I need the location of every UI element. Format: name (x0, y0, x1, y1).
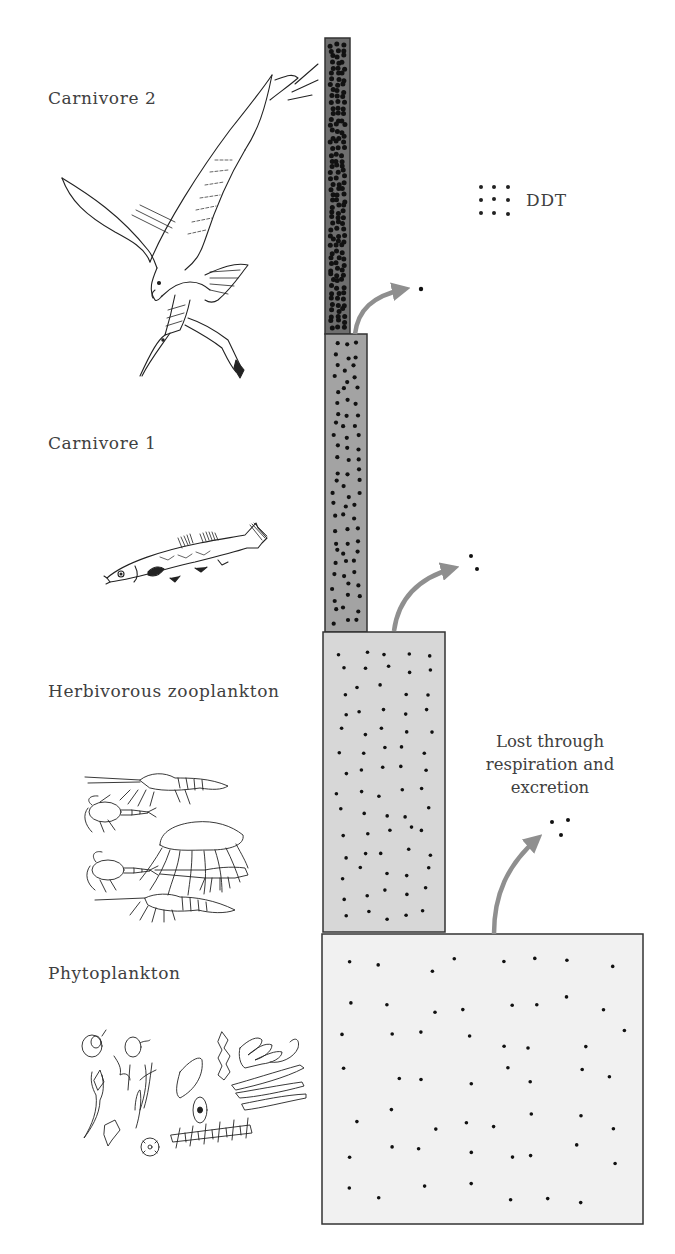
ddt-dot-zooplankton (335, 792, 339, 796)
ddt-dot-carnivore2 (340, 267, 345, 272)
ddt-dot-carnivore1 (354, 618, 358, 622)
ddt-dot-carnivore1 (356, 539, 360, 543)
ddt-dot-phytoplankton (511, 1155, 515, 1159)
ddt-dot-carnivore2 (336, 111, 341, 116)
ddt-dot-phytoplankton (608, 1075, 612, 1079)
ddt-dot-carnivore2 (331, 111, 336, 116)
ddt-dot-carnivore2 (330, 205, 335, 210)
ddt-dot-phytoplankton (506, 1066, 510, 1070)
lost-ddt-dot (475, 567, 479, 571)
ddt-dot-phytoplankton (417, 1147, 421, 1151)
ddt-dot-phytoplankton (349, 1001, 353, 1005)
ddt-dot-carnivore2 (335, 296, 340, 301)
ddt-dot-zooplankton (383, 746, 387, 750)
ddt-dot-carnivore2 (335, 55, 340, 60)
ddt-dot-carnivore2 (342, 180, 347, 185)
ddt-dot-phytoplankton (533, 957, 537, 961)
ddt-dot-carnivore1 (331, 491, 335, 495)
ddt-dot-carnivore1 (345, 446, 349, 450)
ddt-dot-carnivore2 (334, 41, 339, 46)
ddt-dot-phytoplankton (398, 1077, 402, 1081)
ddt-dot-carnivore1 (353, 424, 357, 428)
ddt-dot-carnivore2 (334, 273, 339, 278)
level-label-carnivore2: Carnivore 2 (48, 88, 157, 108)
ddt-dot-zooplankton (344, 713, 348, 717)
ddt-dot-carnivore2 (334, 122, 339, 127)
ddt-dot-carnivore1 (346, 618, 350, 622)
ddt-dot-carnivore1 (336, 443, 340, 447)
food-chain-diagram (0, 0, 675, 1254)
ddt-dot-carnivore1 (334, 607, 338, 611)
ddt-dot-phytoplankton (575, 1143, 579, 1147)
ddt-dot-zooplankton (421, 909, 425, 913)
ddt-dot-zooplankton (427, 866, 431, 870)
ddt-dot-phytoplankton (423, 1184, 427, 1188)
ddt-dot-carnivore2 (335, 94, 340, 99)
ddt-dot-phytoplankton (502, 960, 506, 964)
ddt-dot-carnivore1 (342, 386, 346, 390)
ddt-dot-carnivore1 (347, 458, 351, 462)
ddt-dot-carnivore2 (334, 249, 339, 254)
lost-ddt-dot (566, 818, 570, 822)
ddt-dot-zooplankton (341, 877, 345, 881)
ddt-dot-zooplankton (429, 668, 433, 672)
ddt-dot-carnivore2 (342, 320, 347, 325)
ddt-dot-phytoplankton (461, 1008, 465, 1012)
ddt-dot-zooplankton (424, 886, 428, 890)
ddt-dot-phytoplankton (613, 1162, 617, 1166)
ddt-dot-carnivore2 (336, 318, 341, 323)
ddt-dot-zooplankton (400, 745, 404, 749)
ddt-dot-zooplankton (364, 852, 368, 856)
ddt-dot-zooplankton (359, 866, 363, 870)
ddt-dot-phytoplankton (509, 1198, 513, 1202)
ddt-dot-carnivore2 (341, 256, 346, 261)
ddt-dot-carnivore2 (334, 139, 339, 144)
ddt-dot-carnivore1 (335, 479, 339, 483)
ddt-dot-zooplankton (383, 888, 387, 892)
ddt-dot-zooplankton (420, 829, 424, 833)
loss-arrow-carnivore2 (355, 289, 405, 334)
ddt-dot-carnivore1 (333, 599, 337, 603)
ddt-dot-phytoplankton (579, 1114, 583, 1118)
loss-arrow-zooplankton (494, 838, 538, 934)
ddt-dot-zooplankton (427, 806, 431, 810)
fish-illustration (104, 523, 267, 584)
ddt-dot-zooplankton (345, 772, 349, 776)
ddt-dot-carnivore2 (334, 226, 339, 231)
ddt-dot-zooplankton (410, 825, 414, 829)
ddt-dot-phytoplankton (565, 959, 569, 963)
ddt-dot-phytoplankton (528, 1080, 532, 1084)
ddt-dot-carnivore1 (334, 352, 338, 356)
ddt-dot-carnivore1 (345, 527, 349, 531)
legend-label: DDT (526, 190, 567, 210)
ddt-dot-zooplankton (404, 693, 408, 697)
ddt-dot-carnivore2 (335, 129, 340, 134)
ddt-dot-phytoplankton (602, 1008, 606, 1012)
ddt-dot-zooplankton (404, 712, 408, 716)
ddt-dot-zooplankton (403, 815, 407, 819)
ddt-dot-carnivore1 (353, 375, 357, 379)
ddt-dot-carnivore2 (328, 44, 333, 49)
ddt-dot-zooplankton (387, 665, 391, 669)
ddt-dot-zooplankton (357, 710, 361, 714)
ddt-dot-carnivore2 (342, 285, 347, 290)
ddt-dot-carnivore2 (329, 261, 334, 266)
ddt-dot-zooplankton (365, 894, 369, 898)
level-label-carnivore1: Carnivore 1 (48, 433, 157, 453)
ddt-dot-phytoplankton (355, 1120, 359, 1124)
level-label-zooplankton: Herbivorous zooplankton (48, 681, 280, 701)
ddt-dot-phytoplankton (492, 1125, 496, 1129)
ddt-dot-carnivore1 (334, 421, 338, 425)
ddt-dot-carnivore1 (355, 385, 359, 389)
ddt-dot-carnivore2 (342, 314, 347, 319)
ddt-dot-zooplankton (407, 847, 411, 851)
ddt-dot-carnivore2 (341, 202, 346, 207)
ddt-dot-phytoplankton (469, 1182, 473, 1186)
ddt-dot-carnivore1 (347, 495, 351, 499)
ddt-dot-zooplankton (429, 853, 433, 857)
ddt-dot-carnivore1 (334, 542, 338, 546)
ddt-dot-zooplankton (360, 768, 364, 772)
ddt-dot-zooplankton (341, 834, 345, 838)
ddt-dot-phytoplankton (348, 960, 352, 964)
ddt-dot-phytoplankton (390, 1108, 394, 1112)
